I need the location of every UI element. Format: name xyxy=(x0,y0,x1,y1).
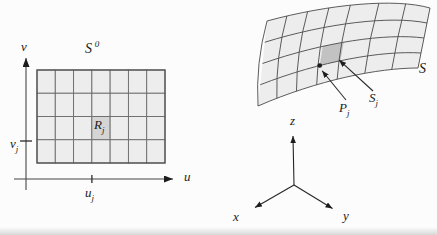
grid-cell xyxy=(92,70,110,93)
y-axis-line xyxy=(294,185,333,209)
grid-cell xyxy=(55,70,73,93)
grid-cell xyxy=(110,117,128,140)
region-label: Rj xyxy=(94,118,104,131)
grid-cell xyxy=(55,117,73,140)
grid-cell xyxy=(37,140,55,163)
u-coordinate-label: uj xyxy=(85,186,94,199)
point-label: Pj xyxy=(339,101,349,114)
u-coordinate-sub: j xyxy=(92,193,95,203)
grid-cell xyxy=(147,140,165,163)
grid-cell xyxy=(74,70,92,93)
y-axis-label: y xyxy=(343,209,349,222)
grid-cell xyxy=(128,93,146,116)
v-coordinate-sub: j xyxy=(16,144,19,154)
grid-cell xyxy=(128,140,146,163)
surface-point xyxy=(317,63,322,68)
page-scan-shadow xyxy=(0,227,437,235)
grid-cell xyxy=(147,70,165,93)
patch-label: Sj xyxy=(369,91,378,104)
grid-cell xyxy=(110,70,128,93)
grid-cell xyxy=(92,93,110,116)
v-axis-label: v xyxy=(21,40,27,53)
v-coordinate-label: vj xyxy=(10,137,18,150)
grid-cell xyxy=(147,117,165,140)
grid-cell xyxy=(110,93,128,116)
u-axis-label: u xyxy=(184,170,191,183)
parameter-domain-label-sup: 0 xyxy=(95,39,100,49)
surface-label: S xyxy=(419,62,426,76)
point-label-base: P xyxy=(339,100,347,115)
surface-fill xyxy=(258,3,430,106)
grid-cell xyxy=(37,117,55,140)
grid-cell xyxy=(55,93,73,116)
grid-cell xyxy=(37,93,55,116)
grid-cell xyxy=(37,70,55,93)
x-axis-line xyxy=(255,185,294,208)
region-label-base: R xyxy=(94,117,102,132)
point-label-sub: j xyxy=(347,108,350,118)
grid-cell xyxy=(74,140,92,163)
region-label-sub: j xyxy=(102,125,105,135)
figure-canvas xyxy=(0,0,437,235)
xyz-axes xyxy=(255,136,333,209)
figure-stage: v S 0 Rj vj u uj Pj Sj S z x y xyxy=(0,0,437,235)
grid-cell xyxy=(74,93,92,116)
grid-cell xyxy=(55,140,73,163)
grid-cell xyxy=(147,93,165,116)
grid-cell xyxy=(92,140,110,163)
grid-cell xyxy=(110,140,128,163)
parameter-domain-label-base: S xyxy=(85,41,92,56)
patch-label-sub: j xyxy=(376,98,379,108)
grid-cell xyxy=(74,117,92,140)
parameter-domain-label: S 0 xyxy=(85,42,99,56)
surface-mesh xyxy=(258,3,430,106)
z-axis-label: z xyxy=(290,114,295,127)
grid-cell xyxy=(128,70,146,93)
x-axis-label: x xyxy=(233,210,239,223)
z-axis-line xyxy=(293,136,294,185)
grid-cell xyxy=(128,117,146,140)
